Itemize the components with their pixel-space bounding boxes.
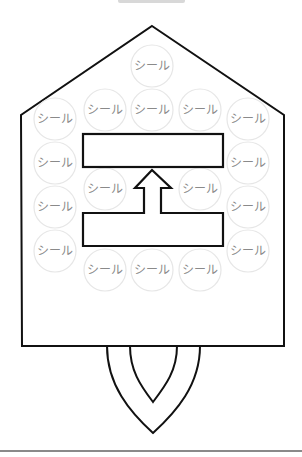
bottom-divider xyxy=(0,450,302,452)
seal-slot[interactable]: シール xyxy=(227,230,269,272)
seal-slot[interactable]: シール xyxy=(84,249,126,291)
seal-label: シール xyxy=(37,156,73,170)
seal-label: シール xyxy=(87,263,123,277)
seal-label: シール xyxy=(37,112,73,126)
seal-label: シール xyxy=(134,103,170,117)
seal-slot[interactable]: シール xyxy=(34,186,76,228)
seal-slot[interactable]: シール xyxy=(34,230,76,272)
seal-slot[interactable]: シール xyxy=(227,142,269,184)
seal-label: シール xyxy=(37,244,73,258)
seal-label: シール xyxy=(134,263,170,277)
seal-slot[interactable]: シール xyxy=(179,168,221,210)
seal-slot[interactable]: シール xyxy=(34,98,76,140)
seal-label: シール xyxy=(182,182,218,196)
seal-label: シール xyxy=(230,200,266,214)
outer-flame-shape xyxy=(107,346,200,433)
seal-label: シール xyxy=(230,112,266,126)
seal-slot[interactable]: シール xyxy=(34,142,76,184)
seal-slot[interactable]: シール xyxy=(84,168,126,210)
seal-label: シール xyxy=(182,263,218,277)
seal-label: シール xyxy=(134,59,170,73)
seal-slot[interactable]: シール xyxy=(179,89,221,131)
seal-slot[interactable]: シール xyxy=(84,89,126,131)
inner-flame-shape xyxy=(130,346,177,402)
upper-goal-box[interactable] xyxy=(83,134,223,167)
seal-label: シール xyxy=(87,182,123,196)
seal-slot[interactable]: シール xyxy=(179,249,221,291)
seal-slot[interactable]: シール xyxy=(131,249,173,291)
seal-label: シール xyxy=(87,103,123,117)
seal-label: シール xyxy=(37,200,73,214)
seal-slot[interactable]: シール xyxy=(227,186,269,228)
seal-label: シール xyxy=(230,156,266,170)
seal-slot[interactable]: シール xyxy=(131,45,173,87)
seal-label: シール xyxy=(182,103,218,117)
seal-label: シール xyxy=(230,244,266,258)
seal-slot[interactable]: シール xyxy=(227,98,269,140)
house-diagram: シールシールシールシールシールシールシールシールシールシールシールシールシールシ… xyxy=(0,0,302,457)
seal-slot[interactable]: シール xyxy=(131,89,173,131)
